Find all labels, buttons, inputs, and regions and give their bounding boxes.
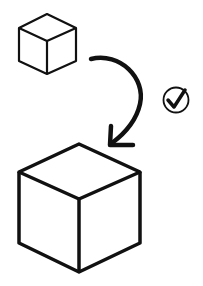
large-cube-icon: [19, 144, 140, 272]
small-cube-icon: [19, 14, 76, 74]
diagram-canvas: [0, 0, 203, 286]
check-circle-icon: [164, 88, 189, 113]
curved-arrow-icon: [91, 58, 141, 145]
